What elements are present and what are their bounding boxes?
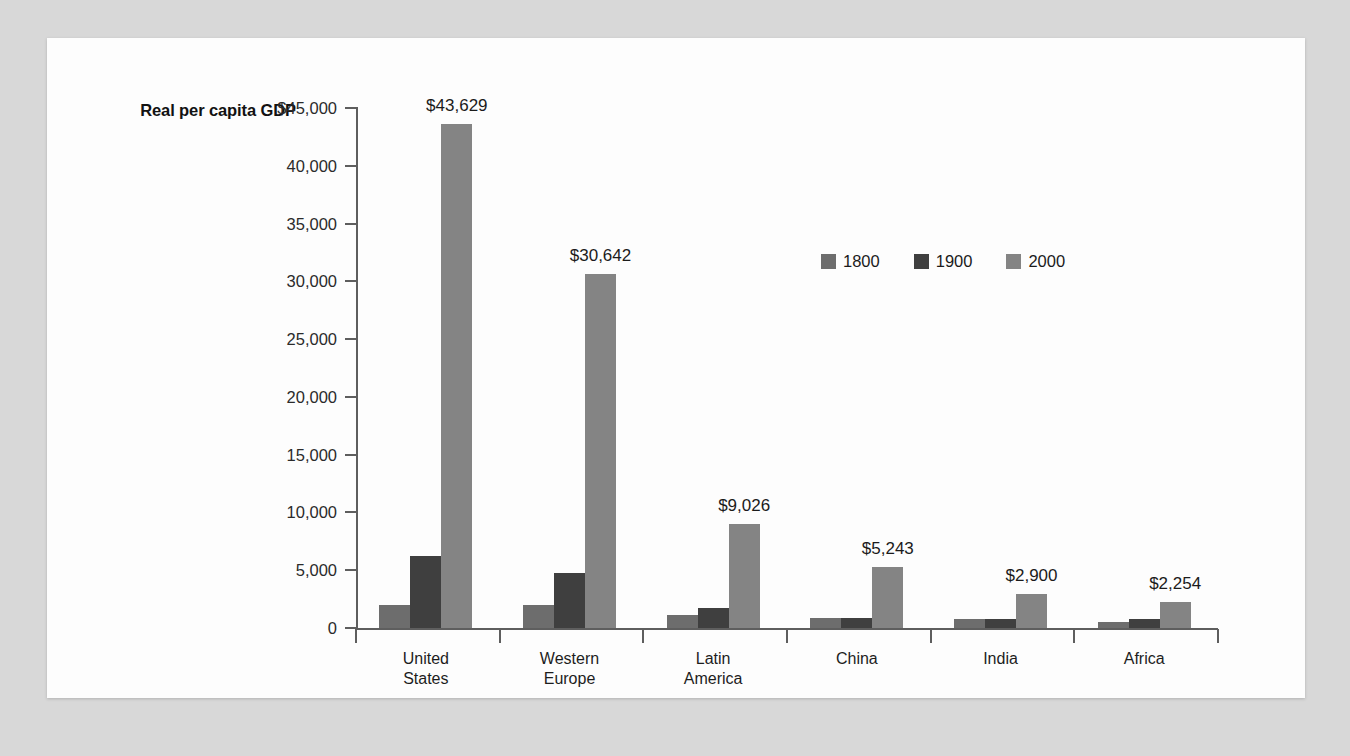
bar	[1129, 619, 1160, 628]
x-axis-tick	[1073, 629, 1075, 643]
bar	[379, 605, 410, 628]
legend-swatch-icon	[914, 254, 929, 269]
legend-label: 1900	[936, 252, 973, 271]
bar	[585, 274, 616, 628]
x-axis-tick	[499, 629, 501, 643]
bar	[729, 524, 760, 628]
bar	[872, 567, 903, 628]
x-axis-tick	[930, 629, 932, 643]
bar	[954, 619, 985, 628]
legend-label: 2000	[1028, 252, 1065, 271]
bar	[523, 605, 554, 628]
page-background: Real per capita GDP 05,00010,00015,00020…	[0, 0, 1350, 756]
bar	[1098, 622, 1129, 628]
bar	[1160, 602, 1191, 628]
bar-value-label: $9,026	[718, 496, 770, 516]
legend-swatch-icon	[1006, 254, 1021, 269]
bar-value-label: $5,243	[862, 539, 914, 559]
legend-item: 1900	[914, 252, 973, 271]
bar-value-label: $43,629	[426, 96, 487, 116]
bar	[410, 556, 441, 628]
legend-swatch-icon	[821, 254, 836, 269]
chart-panel: Real per capita GDP 05,00010,00015,00020…	[47, 38, 1305, 698]
bar-value-label: $2,254	[1149, 574, 1201, 594]
legend-label: 1800	[843, 252, 880, 271]
legend-item: 2000	[1006, 252, 1065, 271]
x-axis-tick	[642, 629, 644, 643]
bar-value-label: $30,642	[570, 246, 631, 266]
bar	[810, 618, 841, 628]
chart-legend: 180019002000	[821, 252, 1065, 271]
x-axis-category-label: Africa	[1059, 649, 1229, 669]
x-axis-tick	[786, 629, 788, 643]
bar	[667, 615, 698, 628]
bar	[554, 573, 585, 628]
bar	[698, 608, 729, 628]
x-axis-tick	[1217, 629, 1219, 643]
x-axis-tick	[355, 629, 357, 643]
legend-item: 1800	[821, 252, 880, 271]
bar-value-label: $2,900	[1006, 566, 1058, 586]
bar	[985, 619, 1016, 628]
bar	[441, 124, 472, 628]
bar-chart: Real per capita GDP 05,00010,00015,00020…	[47, 38, 1305, 698]
bar	[841, 618, 872, 628]
bars-layer: $43,629$30,642$9,026$5,243$2,900$2,254	[47, 38, 1305, 629]
bar	[1016, 594, 1047, 628]
